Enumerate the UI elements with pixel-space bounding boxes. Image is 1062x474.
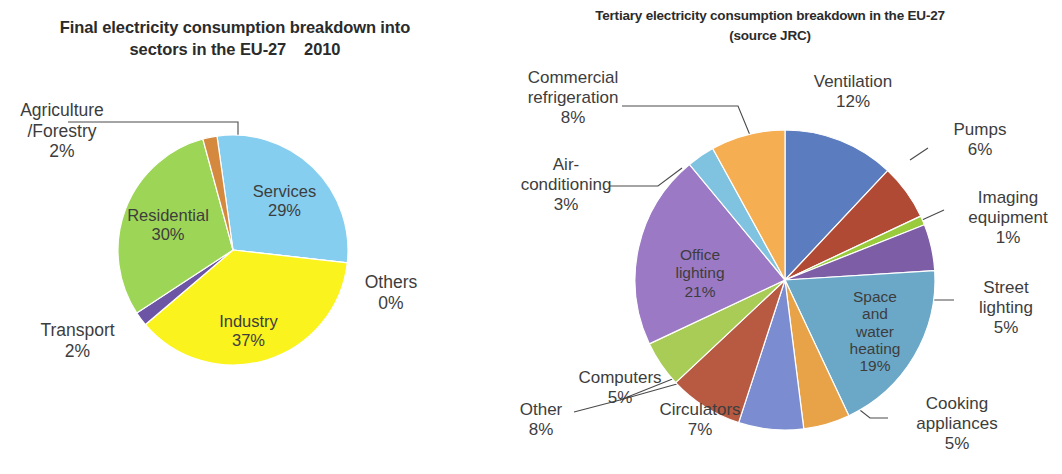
- slice-label-street-lighting: Streetlighting5%: [956, 278, 1056, 338]
- slice-label-air-conditioning: Air-conditioning3%: [496, 155, 636, 215]
- slice-label-industry: Industry37%: [196, 312, 301, 351]
- slice-label-name: Commercialrefrigeration: [498, 68, 648, 108]
- slice-label-percent: 5%: [956, 318, 1056, 338]
- slice-label-office-lighting: Officelighting21%: [652, 246, 748, 301]
- slice-label-residential: Residential30%: [108, 206, 228, 245]
- slice-label-percent: 12%: [788, 92, 918, 112]
- slice-label-percent: 1%: [948, 228, 1062, 248]
- slice-label-imaging-equipment: Imagingequipment1%: [948, 188, 1062, 248]
- slice-label-space-water-heating: Spaceandwaterheating19%: [832, 288, 918, 375]
- slice-label-percent: 5%: [890, 434, 1024, 454]
- slice-label-percent: 2%: [2, 141, 122, 162]
- slice-label-name: Imagingequipment: [948, 188, 1062, 228]
- slice-label-percent: 29%: [232, 201, 337, 220]
- slice-label-percent: 0%: [346, 293, 436, 314]
- slice-label-name: Agriculture/Forestry: [2, 100, 122, 141]
- slice-label-circulators: Circulators7%: [638, 400, 762, 440]
- slice-label-others: Others0%: [346, 272, 436, 313]
- slice-label-other: Other8%: [500, 400, 582, 440]
- slice-label-name: Streetlighting: [956, 278, 1056, 318]
- slice-label-services: Services29%: [232, 182, 337, 221]
- slice-label-name: Transport: [20, 320, 135, 341]
- leader-line: [910, 148, 928, 160]
- slice-label-name: Industry: [196, 312, 301, 331]
- slice-label-name: Cookingappliances: [890, 394, 1024, 434]
- slice-label-percent: 2%: [20, 341, 135, 362]
- slice-label-percent: 37%: [196, 331, 301, 350]
- left-chart-panel: Final electricity consumption breakdown …: [0, 0, 470, 474]
- slice-label-name: Other: [500, 400, 582, 420]
- slice-label-percent: 7%: [638, 420, 762, 440]
- left-pie-chart: [0, 0, 470, 474]
- slice-label-cooking-appliances: Cookingappliances5%: [890, 394, 1024, 454]
- slice-label-name: Residential: [108, 206, 228, 225]
- slice-label-percent: 3%: [496, 195, 636, 215]
- slice-label-name: Computers: [558, 368, 682, 388]
- slice-label-name: Others: [346, 272, 436, 293]
- slice-label-percent: 30%: [108, 225, 228, 244]
- slice-label-percent: 21%: [652, 283, 748, 301]
- slice-label-commercial-refrigeration: Commercialrefrigeration8%: [498, 68, 648, 128]
- slice-label-agriculture: Agriculture/Forestry2%: [2, 100, 122, 162]
- right-chart-panel: Tertiary electricity consumption breakdo…: [470, 0, 1062, 474]
- slice-label-ventilation: Ventilation12%: [788, 72, 918, 112]
- slice-label-percent: 8%: [500, 420, 582, 440]
- slice-label-name: Ventilation: [788, 72, 918, 92]
- slice-label-name: Pumps: [930, 120, 1030, 140]
- slice-label-percent: 6%: [930, 140, 1030, 160]
- slice-label-name: Circulators: [638, 400, 762, 420]
- slice-label-pumps: Pumps6%: [930, 120, 1030, 160]
- slice-label-name: Officelighting: [652, 246, 748, 283]
- slice-label-name: Air-conditioning: [496, 155, 636, 195]
- slice-label-transport: Transport2%: [20, 320, 135, 361]
- slice-label-name: Spaceandwaterheating: [832, 288, 918, 357]
- slice-label-percent: 8%: [498, 108, 648, 128]
- leader-line: [922, 210, 944, 220]
- slice-label-name: Services: [232, 182, 337, 201]
- slice-label-percent: 19%: [832, 357, 918, 374]
